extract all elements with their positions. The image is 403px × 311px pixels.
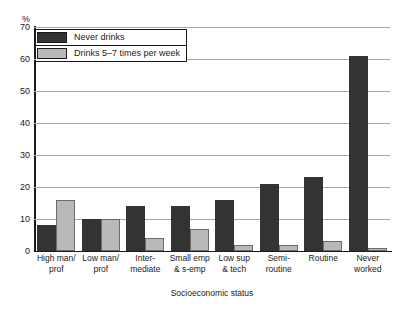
x-axis-category-labels: High man/profLow man/profInter-mediateSm… xyxy=(34,253,390,283)
bar xyxy=(215,200,234,251)
bar xyxy=(126,206,145,251)
legend-item-drinks_5_7: Drinks 5–7 times per week xyxy=(36,45,186,61)
bar xyxy=(304,177,323,251)
y-axis-tick-label: 0 xyxy=(25,247,30,256)
bar xyxy=(101,219,120,251)
bar xyxy=(279,245,298,251)
category-label-line: Small emp xyxy=(168,253,213,264)
bar xyxy=(349,56,368,251)
category-label-line: Inter- xyxy=(123,253,168,264)
y-axis-tick-label: 30 xyxy=(20,151,30,160)
category-label-line: Low man/ xyxy=(79,253,124,264)
category-label-line: & s-emp xyxy=(168,264,213,275)
x-axis-category-label: Low sup& tech xyxy=(212,253,257,274)
x-axis-category-label: Low man/prof xyxy=(79,253,124,274)
bar xyxy=(368,248,387,251)
bar xyxy=(260,184,279,251)
category-label-line: High man/ xyxy=(34,253,79,264)
y-axis-tick-label: 50 xyxy=(20,87,30,96)
x-axis-category-label: Routine xyxy=(301,253,346,264)
x-axis-category-label: Semi-routine xyxy=(257,253,302,274)
x-axis-category-label: High man/prof xyxy=(34,253,79,274)
category-label-line: Semi- xyxy=(257,253,302,264)
bar xyxy=(82,219,101,251)
category-label-line: routine xyxy=(257,264,302,275)
bar xyxy=(234,245,253,251)
category-label-line: Routine xyxy=(301,253,346,264)
category-label-line: prof xyxy=(79,264,124,275)
legend-label: Drinks 5–7 times per week xyxy=(74,48,180,59)
bar xyxy=(171,206,190,251)
bar xyxy=(37,225,56,251)
y-axis-tick-label: 10 xyxy=(20,215,30,224)
category-label-line: worked xyxy=(346,264,391,275)
legend-swatch-icon xyxy=(37,32,67,43)
category-label-line: mediate xyxy=(123,264,168,275)
category-label-line: Never xyxy=(346,253,391,264)
category-label-line: & tech xyxy=(212,264,257,275)
y-axis-tick-label: 60 xyxy=(20,55,30,64)
x-axis-category-label: Neverworked xyxy=(346,253,391,274)
x-axis-title: Socioeconomic status xyxy=(34,288,390,299)
legend-swatch-icon xyxy=(37,48,67,59)
x-axis-category-label: Inter-mediate xyxy=(123,253,168,274)
chart-legend: Never drinksDrinks 5–7 times per week xyxy=(36,29,187,62)
top-caption xyxy=(4,0,194,9)
bar xyxy=(190,229,209,251)
legend-label: Never drinks xyxy=(74,32,125,43)
x-axis-category-label: Small emp& s-emp xyxy=(168,253,213,274)
bar xyxy=(323,241,342,251)
y-axis-tick-label: 40 xyxy=(20,119,30,128)
y-axis-tick-label: 70 xyxy=(20,23,30,32)
legend-item-never_drinks: Never drinks xyxy=(36,30,186,45)
category-label-line: prof xyxy=(34,264,79,275)
y-axis-tick-label: 20 xyxy=(20,183,30,192)
bar xyxy=(145,238,164,251)
bar xyxy=(56,200,75,251)
bar-chart: % 010203040506070 High man/profLow man/p… xyxy=(0,0,403,311)
category-label-line: Low sup xyxy=(212,253,257,264)
